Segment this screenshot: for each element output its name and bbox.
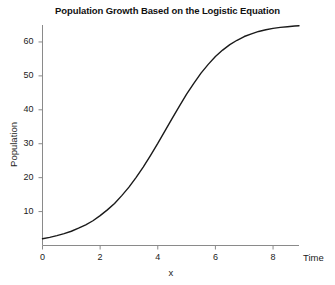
- x-tick-label: 8: [265, 252, 281, 262]
- y-tick-label: 60: [14, 36, 34, 46]
- x-tick-label: 4: [150, 252, 166, 262]
- plot-area: [0, 0, 335, 285]
- x-axis-end-label: Time: [303, 252, 324, 263]
- x-tick-label: 2: [92, 252, 108, 262]
- x-axis-label: x: [141, 267, 201, 278]
- y-axis-label: Population: [8, 115, 19, 175]
- x-tick-label: 0: [35, 252, 51, 262]
- x-axis-ticks: [43, 246, 274, 250]
- y-tick-label: 10: [14, 206, 34, 216]
- y-tick-label: 50: [14, 70, 34, 80]
- logistic-curve: [43, 26, 300, 239]
- y-tick-label: 40: [14, 104, 34, 114]
- y-axis-ticks: [39, 42, 43, 212]
- x-tick-label: 6: [207, 252, 223, 262]
- chart-page: Population Growth Based on the Logistic …: [0, 0, 335, 285]
